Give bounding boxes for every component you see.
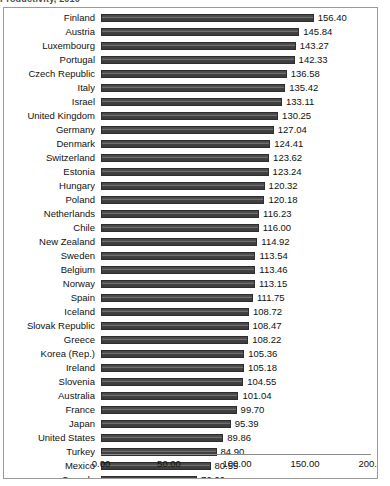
bar-track: 124.41 — [101, 137, 377, 151]
bar — [101, 182, 265, 190]
bar — [101, 294, 253, 302]
bar-row: Iceland108.72 — [4, 305, 377, 319]
bar-row: Poland120.18 — [4, 193, 377, 207]
bar-value-label: 114.92 — [261, 235, 289, 249]
x-axis-line — [101, 454, 371, 455]
bar-category-label: Estonia — [4, 165, 95, 179]
bar-row: Israel133.11 — [4, 95, 377, 109]
bar-value-label: 89.86 — [227, 431, 251, 445]
bar-value-label: 124.41 — [274, 137, 303, 151]
bar-category-label: Norway — [4, 277, 95, 291]
bar-row: Czech Republic136.58 — [4, 67, 377, 81]
bar-track: 111.75 — [101, 291, 377, 305]
x-axis-tick-label: 200.00 — [358, 456, 378, 472]
bar — [101, 98, 282, 106]
bar-category-label: Hungary — [4, 179, 95, 193]
bar-row: Korea (Rep.)105.36 — [4, 347, 377, 361]
bar-track: 127.04 — [101, 123, 377, 137]
bar-category-label: Chile — [4, 221, 95, 235]
bar-row: Japan95.39 — [4, 417, 377, 431]
bar-row: France99.70 — [4, 403, 377, 417]
bar-track: 70.66 — [101, 473, 377, 479]
bar-row: Greece108.22 — [4, 333, 377, 347]
bar-category-label: Belgium — [4, 263, 95, 277]
bar-category-label: Germany — [4, 123, 95, 137]
bar-category-label: Greece — [4, 333, 95, 347]
bar — [101, 126, 274, 134]
bar — [101, 350, 244, 358]
bar-row: Denmark124.41 — [4, 137, 377, 151]
bar-value-label: 95.39 — [235, 417, 259, 431]
bar — [101, 210, 259, 218]
bar-category-label: New Zealand — [4, 235, 95, 249]
bar-category-label: France — [4, 403, 95, 417]
bar-row: New Zealand114.92 — [4, 235, 377, 249]
bar-track: 104.55 — [101, 375, 377, 389]
bar-value-label: 145.84 — [303, 25, 332, 39]
bar-category-label: United States — [4, 431, 95, 445]
bar — [101, 238, 257, 246]
bar — [101, 392, 238, 400]
bar — [101, 420, 231, 428]
bar-value-label: 111.75 — [257, 291, 285, 305]
bar-category-label: Canada — [4, 473, 95, 479]
bar-track: 114.92 — [101, 235, 377, 249]
x-axis-tick-label: 0.00 — [92, 456, 111, 472]
bar — [101, 378, 243, 386]
bar — [101, 364, 244, 372]
bar — [101, 70, 287, 78]
bar — [101, 196, 264, 204]
bar-track: 130.25 — [101, 109, 377, 123]
bar-track: 123.24 — [101, 165, 377, 179]
x-axis-tick-labels: 0.0050.00100.00150.00200.00 — [4, 456, 377, 472]
bar — [101, 14, 314, 22]
bar-row: Hungary120.32 — [4, 179, 377, 193]
bar — [101, 154, 269, 162]
bar-value-label: 120.18 — [268, 193, 297, 207]
bar-value-label: 105.36 — [248, 347, 277, 361]
bar-value-label: 113.46 — [259, 263, 287, 277]
bar-value-label: 156.40 — [318, 11, 347, 25]
bar — [101, 42, 296, 50]
bar — [101, 336, 248, 344]
bar-value-label: 113.15 — [259, 277, 287, 291]
bar-value-label: 104.55 — [247, 375, 276, 389]
bar-value-label: 123.24 — [273, 165, 302, 179]
bar — [101, 56, 295, 64]
bar-track: 108.72 — [101, 305, 377, 319]
bar-category-label: Netherlands — [4, 207, 95, 221]
bar — [101, 28, 299, 36]
bar-row: Canada70.66 — [4, 473, 377, 479]
chart-caption-text: Productivity, 2010 — [0, 0, 200, 4]
bar-row: Austria145.84 — [4, 25, 377, 39]
bar-track: 116.23 — [101, 207, 377, 221]
bar-track: 156.40 — [101, 11, 377, 25]
bar-row: Netherlands116.23 — [4, 207, 377, 221]
bar-track: 108.47 — [101, 319, 377, 333]
bar-chart-plot-area: Finland156.40Austria145.84Luxembourg143.… — [4, 11, 377, 479]
bar-row: Ireland105.18 — [4, 361, 377, 375]
bar-track: 135.42 — [101, 81, 377, 95]
bar-category-label: Spain — [4, 291, 95, 305]
bar-value-label: 127.04 — [278, 123, 307, 137]
bar-track: 136.58 — [101, 67, 377, 81]
bar-category-label: Australia — [4, 389, 95, 403]
bar-row: Norway113.15 — [4, 277, 377, 291]
chart-caption-strip: Productivity, 2010 — [0, 0, 200, 4]
bar-row: Germany127.04 — [4, 123, 377, 137]
bar-value-label: 135.42 — [289, 81, 318, 95]
x-axis-tick-label: 50.00 — [157, 456, 181, 472]
bar-row: United Kingdom130.25 — [4, 109, 377, 123]
bar-category-label: Korea (Rep.) — [4, 347, 95, 361]
bar-row: Slovak Republic108.47 — [4, 319, 377, 333]
chart-frame: Finland156.40Austria145.84Luxembourg143.… — [3, 7, 378, 479]
bar-value-label: 101.04 — [242, 389, 271, 403]
bar-category-label: Iceland — [4, 305, 95, 319]
bar — [101, 434, 223, 442]
bar-track: 143.27 — [101, 39, 377, 53]
bar-value-label: 143.27 — [300, 39, 329, 53]
bar-row: Finland156.40 — [4, 11, 377, 25]
bar-category-label: Israel — [4, 95, 95, 109]
bar-value-label: 108.22 — [252, 333, 281, 347]
bar-row: Portugal142.33 — [4, 53, 377, 67]
